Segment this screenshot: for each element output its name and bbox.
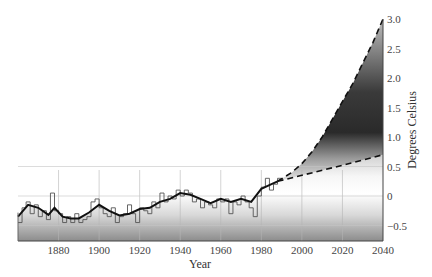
y-tick-label: −0.5 xyxy=(387,220,407,232)
x-tick-labels: 188019001920194019601980200020202040 xyxy=(48,244,395,256)
x-tick-label: 2040 xyxy=(372,244,395,256)
x-tick-label: 1900 xyxy=(88,244,111,256)
x-tick-label: 1960 xyxy=(210,244,233,256)
projection-band xyxy=(278,19,383,181)
x-tick-label: 1980 xyxy=(250,244,273,256)
x-tick-label: 2000 xyxy=(291,244,314,256)
x-tick-label: 1880 xyxy=(48,244,71,256)
x-tick-label: 1940 xyxy=(169,244,192,256)
y-tick-label: 1.5 xyxy=(387,102,401,114)
plot-area xyxy=(18,19,383,241)
x-tick-label: 2020 xyxy=(331,244,354,256)
y-tick-label: 0.5 xyxy=(387,161,401,173)
y-tick-label: 0 xyxy=(387,190,393,202)
y-tick-label: 2.5 xyxy=(387,43,401,55)
y-tick-label: 2.0 xyxy=(387,72,401,84)
temperature-chart: 188019001920194019601980200020202040 3.0… xyxy=(0,0,432,277)
x-tick-label: 1920 xyxy=(129,244,152,256)
x-axis-label: Year xyxy=(189,257,211,271)
y-tick-label: 3.0 xyxy=(387,13,401,25)
y-axis-label: Degrees Celsius xyxy=(405,91,419,169)
y-tick-label: 1.0 xyxy=(387,131,401,143)
